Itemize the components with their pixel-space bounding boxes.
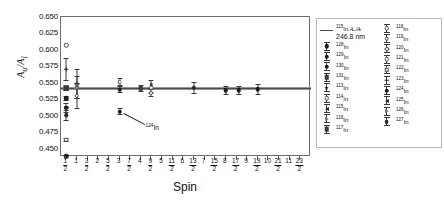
marker-filled-square-icon	[139, 86, 144, 91]
legend-label: 115In Aᵤ/Aₗ246.8 nm	[336, 24, 365, 40]
x-tick-label: 52	[106, 158, 110, 172]
legend-symbol-open-tri-right-icon	[320, 114, 333, 123]
data-point	[72, 83, 81, 109]
data-point	[62, 138, 71, 143]
legend-item-127In[interactable]: 127In	[380, 117, 438, 127]
error-cap-top	[117, 78, 122, 79]
legend-symbol-filled-circle-icon	[320, 52, 333, 61]
legend-symbol-filled-hex-icon	[380, 117, 393, 126]
legend-label: 114In	[336, 94, 348, 103]
legend-label: 129In	[336, 52, 349, 61]
legend-item-126In[interactable]: 126In	[380, 106, 438, 116]
data-point	[62, 58, 71, 81]
legend-symbol-open-tri-right-icon	[380, 107, 393, 116]
x-tick-label: 2	[95, 158, 99, 165]
legend-label: 113In	[336, 83, 348, 92]
legend-label: 121In	[396, 55, 409, 64]
data-point	[136, 85, 145, 92]
legend-item-131In[interactable]: 131In	[320, 72, 378, 82]
legend-label: 126In	[396, 107, 409, 116]
x-tick-label: 192	[253, 158, 260, 172]
legend-symbol-open-circle-icon	[380, 55, 393, 64]
legend-item-130In[interactable]: 130In	[320, 62, 378, 72]
legend-item-122In[interactable]: 122In	[380, 65, 438, 75]
x-tick-label: 8	[223, 158, 227, 165]
legend-label: 122In	[396, 65, 409, 74]
data-point	[62, 110, 71, 121]
error-cap-bottom	[117, 92, 122, 93]
marker-filled-circle-icon	[64, 96, 69, 101]
legend-item-123In[interactable]: 123In	[380, 75, 438, 85]
marker-filled-circle-icon	[236, 88, 241, 93]
marker-open-circle-icon	[64, 43, 69, 48]
x-tick-label: 172	[232, 158, 239, 172]
legend-item-119In[interactable]: 119In	[380, 33, 438, 43]
error-cap-top	[74, 69, 79, 70]
legend-item-116In[interactable]: 116In	[320, 114, 378, 124]
marker-filled-square-icon	[64, 86, 69, 91]
reference-line	[61, 88, 311, 89]
legend-label: 131In	[336, 73, 349, 82]
annotation-arrow-124in	[123, 113, 144, 125]
marker-filled-circle-icon	[117, 88, 122, 93]
data-point	[147, 88, 156, 92]
x-tick-label: 6	[181, 158, 185, 165]
error-cap-bottom	[236, 94, 241, 95]
marker-filled-circle-icon	[224, 88, 229, 93]
data-point	[115, 78, 124, 87]
data-point	[189, 82, 198, 95]
legend-symbol-open-diamond-icon	[380, 44, 393, 53]
legend-label: 124In	[396, 86, 409, 95]
legend-label: 118In	[396, 24, 408, 33]
y-tick-label: 0.500	[39, 110, 58, 119]
chart-screenshot: Au/Al 0.4500.4750.5000.5250.5500.5750.60…	[0, 0, 444, 216]
legend-item-115In[interactable]: 115In	[320, 103, 378, 113]
legend-item-121In[interactable]: 121In	[380, 54, 438, 64]
legend-symbol-plus-icon	[380, 76, 393, 85]
legend-item-125In[interactable]: 125In	[380, 96, 438, 106]
legend-label: 130In	[336, 63, 349, 72]
y-tick-label: 0.650	[39, 12, 58, 21]
marker-open-hex-icon	[117, 80, 122, 85]
legend-symbol-filled-tri-left-icon	[380, 96, 393, 105]
x-tick-label: 3	[117, 158, 121, 165]
error-cap-bottom	[191, 93, 196, 94]
error-cap-top	[149, 80, 154, 81]
legend-item-129In[interactable]: 129In	[320, 51, 378, 61]
legend-item-120In[interactable]: 120In	[380, 44, 438, 54]
legend-symbol-open-circle-icon	[380, 24, 393, 33]
marker-open-circle-icon	[75, 93, 80, 98]
legend-column-right: 118In119In120In121In122In123In124In125In…	[380, 23, 438, 143]
x-tick-label: 1	[74, 158, 78, 165]
error-cap-bottom	[74, 108, 79, 109]
legend-item-114In[interactable]: 114In	[320, 93, 378, 103]
legend-column-left: 115In Aᵤ/Aₗ246.8 nm128In129In130In131In1…	[320, 23, 378, 143]
error-cap-top	[64, 103, 69, 104]
marker-open-circle-icon	[149, 86, 154, 91]
legend-item-128In[interactable]: 128In	[320, 41, 378, 51]
x-tick-label: 32	[85, 158, 89, 172]
x-tick-label: 11	[285, 158, 292, 165]
marker-open-circle-icon	[64, 138, 69, 143]
x-tick-label: 12	[64, 158, 68, 172]
legend-label: 128In	[336, 42, 349, 51]
legend-symbol-open-circle-icon	[320, 94, 333, 103]
x-axis-title: Spin	[60, 180, 310, 194]
legend-symbol-star-icon	[320, 83, 333, 92]
x-tick-label: 132	[189, 158, 196, 172]
x-tick-label: 232	[296, 158, 303, 172]
legend-item-124In[interactable]: 124In	[380, 85, 438, 95]
error-cap-top	[64, 110, 69, 111]
legend-item-113In[interactable]: 113In	[320, 83, 378, 93]
marker-filled-circle-icon	[117, 109, 122, 114]
legend-item-118In[interactable]: 118In	[380, 23, 438, 33]
error-cap-bottom	[64, 80, 69, 81]
marker-plus-icon	[64, 67, 69, 72]
y-axis-tick-labels: 0.4500.4750.5000.5250.5500.5750.6000.625…	[16, 16, 58, 156]
data-point	[62, 86, 71, 91]
legend: 115In Aᵤ/Aₗ246.8 nm128In129In130In131In1…	[316, 18, 442, 148]
legend-item-115In[interactable]: 115In Aᵤ/Aₗ246.8 nm	[320, 23, 378, 41]
data-point	[234, 86, 243, 96]
data-point	[62, 45, 71, 49]
legend-item-117In[interactable]: 117In	[320, 124, 378, 134]
